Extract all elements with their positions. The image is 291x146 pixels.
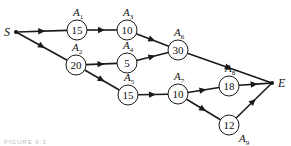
edge-A1-A3 bbox=[87, 27, 117, 33]
terminals: SE bbox=[4, 25, 286, 90]
node-a9: 12A9 bbox=[219, 115, 250, 146]
edge-A5-A7 bbox=[138, 91, 168, 97]
node-label: A8 bbox=[224, 62, 236, 77]
edge-S-A1 bbox=[17, 28, 67, 34]
node-label: A3 bbox=[122, 6, 134, 21]
network-diagram: 15A120A210A35A415A530A610A718A812A9 SE bbox=[0, 0, 291, 146]
node-label: A2 bbox=[71, 41, 83, 56]
edge-A7-A8 bbox=[188, 87, 219, 93]
node-label: A9 bbox=[238, 132, 250, 146]
figure-caption: FIGURE 9.3 bbox=[4, 139, 47, 145]
node-value: 20 bbox=[71, 59, 83, 71]
node-value: 15 bbox=[123, 89, 135, 101]
terminal-e: E bbox=[270, 76, 286, 90]
node-a1: 15A1 bbox=[67, 6, 87, 40]
edge-A7-A9 bbox=[187, 99, 221, 120]
arrow-icon bbox=[98, 27, 105, 33]
edge-S-A2 bbox=[17, 33, 67, 60]
node-label: A7 bbox=[173, 70, 185, 85]
node-a4: 5A4 bbox=[117, 39, 137, 73]
node-label: A1 bbox=[72, 6, 84, 21]
node-label: A4 bbox=[122, 39, 134, 54]
node-value: 5 bbox=[124, 57, 130, 69]
node-a5: 15A5 bbox=[118, 71, 138, 105]
node-a8: 18A8 bbox=[219, 62, 239, 96]
svg-text:S: S bbox=[4, 25, 10, 39]
node-value: 18 bbox=[224, 80, 236, 92]
edge-A3-A6 bbox=[136, 34, 168, 47]
edge-A2-A4 bbox=[86, 61, 117, 67]
node-value: 12 bbox=[224, 119, 235, 131]
svg-text:E: E bbox=[277, 76, 286, 90]
node-label: A5 bbox=[123, 71, 135, 86]
arrow-icon bbox=[38, 28, 45, 34]
node-a2: 20A2 bbox=[66, 41, 86, 75]
arrow-icon bbox=[199, 87, 206, 93]
arrow-icon bbox=[149, 91, 156, 97]
node-value: 10 bbox=[122, 24, 134, 36]
node-value: 10 bbox=[173, 88, 185, 100]
terminal-s: S bbox=[4, 25, 18, 39]
arrow-icon bbox=[251, 81, 258, 87]
edge-A9-E bbox=[236, 84, 271, 118]
node-a7: 10A7 bbox=[168, 70, 188, 104]
node-a6: 30A6 bbox=[168, 26, 188, 60]
arrow-icon bbox=[97, 61, 104, 67]
node-value: 15 bbox=[72, 24, 84, 36]
edge-A4-A6 bbox=[137, 52, 169, 60]
node-a3: 10A3 bbox=[117, 6, 137, 40]
edge-A8-E bbox=[239, 81, 271, 87]
edge-A2-A5 bbox=[85, 70, 120, 90]
node-value: 30 bbox=[173, 44, 185, 56]
node-label: A6 bbox=[173, 26, 185, 41]
